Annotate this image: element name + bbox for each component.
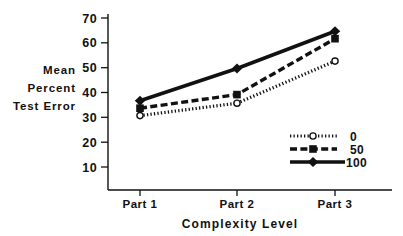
- series-50-marker-part-2: [233, 91, 241, 99]
- legend-label-100: 100: [346, 156, 367, 170]
- y-axis-ticks: [101, 18, 108, 167]
- x-tick-label-part-1: Part 1: [123, 198, 158, 210]
- y-tick-label-70: 70: [82, 12, 97, 26]
- x-tick-label-part-3: Part 3: [318, 198, 353, 210]
- x-axis-tick-labels: Part 1 Part 2 Part 3: [123, 198, 353, 210]
- x-axis-title: Complexity Level: [182, 217, 298, 231]
- y-tick-label-50: 50: [82, 61, 97, 75]
- legend-marker-open-circle-icon: [310, 133, 316, 139]
- x-axis-ticks: [140, 190, 335, 196]
- legend-label-50: 50: [350, 143, 364, 157]
- legend-entry-0: 0: [290, 130, 357, 144]
- legend-label-0: 0: [350, 130, 357, 144]
- y-tick-label-40: 40: [82, 86, 97, 100]
- series-0-marker-part-3: [332, 58, 338, 64]
- line-chart-canvas: 70 60 50 40 30 20 10 Mean Percent Test E…: [0, 0, 403, 236]
- legend-marker-filled-diamond-icon: [308, 157, 318, 167]
- legend-entry-50: 50: [290, 143, 364, 157]
- y-axis-title-line-1: Mean: [43, 64, 76, 76]
- y-axis-title-line-3: Test Error: [13, 100, 76, 112]
- legend-marker-filled-square-icon: [309, 145, 317, 153]
- x-tick-label-part-2: Part 2: [220, 198, 255, 210]
- y-tick-label-60: 60: [82, 36, 97, 50]
- chart-figure: 70 60 50 40 30 20 10 Mean Percent Test E…: [0, 0, 403, 236]
- y-axis-title: Mean Percent Test Error: [13, 64, 76, 112]
- y-tick-label-30: 30: [82, 111, 97, 125]
- series-0-marker-part-1: [137, 113, 143, 119]
- series-100-marker-part-2: [232, 64, 242, 74]
- series-100-marker-part-1: [135, 96, 145, 106]
- chart-legend: 0 50 100: [290, 130, 367, 170]
- y-axis-title-line-2: Percent: [28, 82, 77, 94]
- series-100-marker-part-3: [330, 26, 340, 36]
- y-axis-tick-labels: 70 60 50 40 30 20 10: [82, 12, 97, 175]
- legend-entry-100: 100: [290, 156, 367, 170]
- y-tick-label-10: 10: [82, 161, 97, 175]
- series-0-marker-part-2: [234, 100, 240, 106]
- y-tick-label-20: 20: [82, 136, 97, 150]
